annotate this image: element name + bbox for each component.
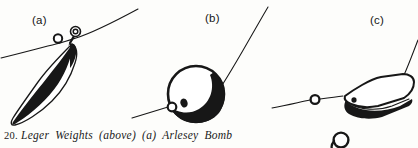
fishing-line-c-left bbox=[272, 100, 310, 108]
caption-text: Leger Weights (above) (a) Arlesey Bomb bbox=[21, 129, 232, 141]
swivel-ring-inner-a bbox=[73, 29, 78, 34]
line-bead-b bbox=[168, 103, 177, 112]
caption-number: 20. bbox=[4, 130, 18, 141]
loose-ring-c bbox=[334, 133, 349, 148]
fishing-line-c-through bbox=[320, 96, 343, 99]
leger-weights-figure: (a) (b) (c) 20.Leger Weights (above) (a)… bbox=[0, 0, 418, 148]
panel-label-c: (c) bbox=[370, 14, 384, 26]
line-bead-a bbox=[54, 34, 62, 42]
line-bead-c bbox=[311, 95, 320, 104]
fishing-line-c-right bbox=[404, 40, 418, 75]
panel-label-b: (b) bbox=[205, 12, 220, 24]
loose-ring-tail-c bbox=[332, 141, 334, 148]
panel-a-arlesey-bomb bbox=[1, 9, 138, 125]
fishing-line-b-left bbox=[132, 107, 168, 118]
figure-caption: 20.Leger Weights (above) (a) Arlesey Bom… bbox=[4, 129, 304, 141]
panel-label-a: (a) bbox=[32, 14, 47, 26]
flat-weight-hole-c bbox=[351, 97, 356, 103]
panel-b-drilled-bullet bbox=[132, 7, 268, 123]
